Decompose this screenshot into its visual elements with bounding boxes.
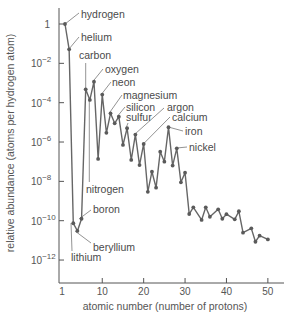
leader-line xyxy=(118,107,125,116)
data-point xyxy=(146,190,150,194)
data-point xyxy=(204,205,208,209)
element-label-neon: neon xyxy=(112,76,136,88)
element-label-calcium: calcium xyxy=(172,111,208,123)
y-tick-label: 10−6 xyxy=(31,134,52,148)
leader-line xyxy=(65,13,79,24)
data-point xyxy=(113,121,117,125)
x-axis-label: atomic number (number of protons) xyxy=(83,300,248,312)
y-axis-title: relative abundance (atoms per hydrogen a… xyxy=(4,34,16,252)
leader-line xyxy=(168,127,183,131)
element-label-lithium: lithium xyxy=(71,251,102,263)
data-point xyxy=(254,240,258,244)
y-axis-label: relative abundance (atoms per hydrogen a… xyxy=(4,34,16,252)
x-tick-label: 40 xyxy=(221,286,233,297)
data-point xyxy=(220,217,224,221)
element-label-sulfur: sulfur xyxy=(126,111,152,123)
element-label-nitrogen: nitrogen xyxy=(86,183,124,195)
data-point xyxy=(266,237,270,241)
data-point xyxy=(67,47,71,51)
element-label-nickel: nickel xyxy=(189,141,216,153)
data-point xyxy=(121,143,125,147)
leader-line xyxy=(109,95,122,113)
data-point xyxy=(171,164,175,168)
element-label-oxygen: oxygen xyxy=(105,63,139,75)
data-point xyxy=(183,171,187,175)
element-label-boron: boron xyxy=(93,203,120,215)
y-tick-label: 1 xyxy=(44,19,50,30)
element-label-magnesium: magnesium xyxy=(123,89,178,101)
data-point xyxy=(109,111,113,115)
data-point xyxy=(71,221,75,225)
data-point xyxy=(117,115,121,119)
x-tick-label: 30 xyxy=(179,286,191,297)
data-point xyxy=(150,170,154,174)
y-tick-label: 10−12 xyxy=(31,252,56,266)
data-point xyxy=(187,212,191,216)
data-point xyxy=(80,217,84,221)
data-point xyxy=(158,150,162,154)
data-point xyxy=(76,229,80,233)
data-point xyxy=(142,142,146,146)
abundance-chart: relative abundance (atoms per hydrogen a… xyxy=(0,0,294,317)
data-point xyxy=(84,87,88,91)
data-point xyxy=(138,163,142,167)
data-point xyxy=(105,131,109,135)
data-point xyxy=(63,22,67,26)
leader-line xyxy=(93,69,103,81)
data-point xyxy=(208,215,212,219)
data-point xyxy=(88,98,92,102)
data-point xyxy=(125,126,129,130)
data-point xyxy=(191,205,195,209)
data-point xyxy=(175,146,179,150)
data-point xyxy=(216,207,220,211)
y-tick-label: 10−10 xyxy=(31,213,56,227)
element-label-carbon: carbon xyxy=(79,49,111,61)
leader-line xyxy=(69,37,79,49)
data-point xyxy=(241,231,245,235)
data-point xyxy=(233,217,237,221)
data-point xyxy=(179,180,183,184)
data-point xyxy=(162,160,166,164)
element-label-iron: iron xyxy=(185,125,203,137)
data-point xyxy=(167,125,171,129)
leader-line xyxy=(102,82,111,94)
leader-line xyxy=(71,223,72,251)
data-point xyxy=(225,212,229,216)
y-tick-label: 10−2 xyxy=(31,55,52,69)
x-tick-label: 1 xyxy=(59,286,65,297)
element-labels: hydrogenheliumcarbonoxygenneonmagnesiums… xyxy=(71,8,216,263)
x-tick-label: 50 xyxy=(262,286,274,297)
data-point xyxy=(249,226,253,230)
x-tick-label: 20 xyxy=(138,286,150,297)
data-point xyxy=(100,93,104,97)
data-point xyxy=(237,209,241,213)
data-point xyxy=(154,186,158,190)
y-tick-label: 10−8 xyxy=(31,173,52,187)
x-ticks: 11020304050 xyxy=(59,278,274,297)
y-tick-label: 10−4 xyxy=(31,95,52,109)
x-tick-label: 10 xyxy=(97,286,109,297)
element-label-helium: helium xyxy=(81,31,112,43)
data-point xyxy=(92,80,96,84)
element-label-hydrogen: hydrogen xyxy=(81,8,125,20)
data-point xyxy=(133,133,137,137)
data-point xyxy=(129,158,133,162)
data-point xyxy=(258,234,262,238)
data-point xyxy=(200,218,204,222)
data-point xyxy=(96,157,100,161)
